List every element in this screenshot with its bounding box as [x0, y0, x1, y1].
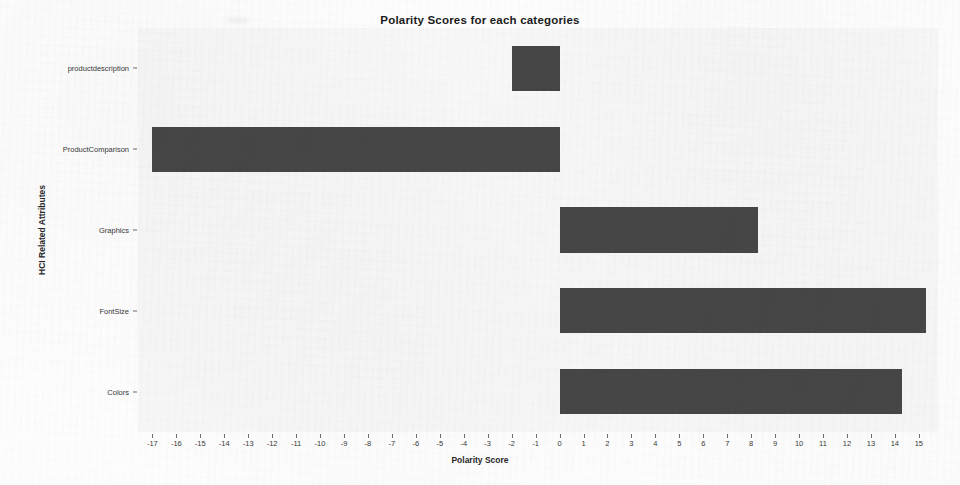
- x-tick-mark: [584, 434, 585, 438]
- x-tick-mark: [919, 434, 920, 438]
- x-tick-label: 6: [701, 439, 705, 448]
- x-tick-mark: [703, 434, 704, 438]
- x-axis-title: Polarity Score: [0, 455, 960, 465]
- x-tick-label: 10: [795, 439, 803, 448]
- x-tick-label: -15: [195, 439, 206, 448]
- x-tick-mark: [895, 434, 896, 438]
- x-tick-mark: [272, 434, 273, 438]
- y-tick-label: Colors: [107, 387, 129, 396]
- x-tick-mark: [679, 434, 680, 438]
- x-tick-mark: [344, 434, 345, 438]
- x-tick-label: 15: [915, 439, 923, 448]
- x-tick-mark: [392, 434, 393, 438]
- x-tick-label: -7: [389, 439, 396, 448]
- y-axis-ticks: productdescriptionProductComparisonGraph…: [0, 28, 138, 432]
- chart-title: Polarity Scores for each categories: [0, 14, 960, 26]
- x-tick-mark: [200, 434, 201, 438]
- bar-productdescription: [512, 46, 560, 91]
- y-tick-mark: [133, 68, 137, 69]
- x-tick-label: -2: [508, 439, 515, 448]
- x-axis-ticks: -17-16-15-14-13-12-11-10-9-8-7-6-5-4-3-2…: [138, 434, 938, 454]
- y-tick-mark: [133, 391, 137, 392]
- x-tick-mark: [751, 434, 752, 438]
- x-tick-label: 12: [843, 439, 851, 448]
- x-tick-label: -14: [219, 439, 230, 448]
- x-tick-label: 2: [605, 439, 609, 448]
- x-tick-mark: [631, 434, 632, 438]
- bar-productcomparison: [152, 127, 559, 172]
- x-tick-mark: [847, 434, 848, 438]
- x-tick-label: 11: [819, 439, 827, 448]
- bar-colors: [560, 369, 903, 414]
- x-tick-label: 4: [653, 439, 657, 448]
- y-tick-label: Graphics: [99, 226, 129, 235]
- y-tick-mark: [133, 149, 137, 150]
- x-tick-label: -13: [243, 439, 254, 448]
- x-tick-mark: [607, 434, 608, 438]
- x-tick-mark: [224, 434, 225, 438]
- chart-figure: Polarity Scores for each categories HCI …: [0, 0, 960, 485]
- x-tick-label: 7: [725, 439, 729, 448]
- x-tick-label: 14: [891, 439, 899, 448]
- x-tick-mark: [727, 434, 728, 438]
- x-tick-mark: [655, 434, 656, 438]
- x-tick-mark: [512, 434, 513, 438]
- x-tick-mark: [440, 434, 441, 438]
- plot-area: [138, 28, 938, 432]
- x-tick-mark: [560, 434, 561, 438]
- x-tick-label: 13: [867, 439, 875, 448]
- x-tick-label: -11: [291, 439, 301, 448]
- bar-graphics: [560, 207, 759, 252]
- x-tick-mark: [248, 434, 249, 438]
- x-tick-label: 8: [749, 439, 753, 448]
- x-tick-label: -3: [484, 439, 491, 448]
- x-tick-label: -6: [413, 439, 420, 448]
- x-tick-mark: [823, 434, 824, 438]
- x-tick-label: -4: [460, 439, 467, 448]
- x-tick-label: -16: [171, 439, 182, 448]
- x-tick-mark: [320, 434, 321, 438]
- x-tick-mark: [416, 434, 417, 438]
- y-tick-mark: [133, 230, 137, 231]
- x-tick-label: 3: [629, 439, 633, 448]
- x-tick-mark: [871, 434, 872, 438]
- x-tick-label: 1: [581, 439, 585, 448]
- x-tick-mark: [488, 434, 489, 438]
- x-tick-mark: [368, 434, 369, 438]
- x-tick-mark: [775, 434, 776, 438]
- x-tick-mark: [799, 434, 800, 438]
- y-tick-label: ProductComparison: [63, 145, 129, 154]
- x-tick-label: -8: [365, 439, 372, 448]
- y-tick-mark: [133, 310, 137, 311]
- y-tick-label: productdescription: [68, 64, 129, 73]
- x-tick-mark: [296, 434, 297, 438]
- x-tick-label: -17: [147, 439, 158, 448]
- x-tick-label: 9: [773, 439, 777, 448]
- x-tick-label: -10: [315, 439, 326, 448]
- x-tick-label: -1: [532, 439, 539, 448]
- y-tick-label: FontSize: [99, 306, 129, 315]
- x-tick-mark: [176, 434, 177, 438]
- x-tick-label: 0: [557, 439, 561, 448]
- bar-fontsize: [560, 288, 926, 333]
- x-tick-label: -12: [267, 439, 278, 448]
- x-tick-mark: [536, 434, 537, 438]
- x-tick-label: 5: [677, 439, 681, 448]
- x-tick-mark: [152, 434, 153, 438]
- x-tick-label: -5: [436, 439, 443, 448]
- x-tick-label: -9: [341, 439, 348, 448]
- x-tick-mark: [464, 434, 465, 438]
